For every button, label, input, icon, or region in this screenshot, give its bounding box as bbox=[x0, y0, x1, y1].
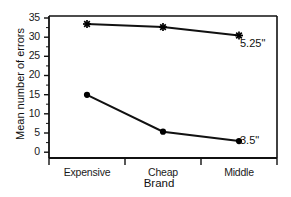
series-annotation-3-5: 3.5" bbox=[240, 134, 259, 146]
y-axis-title: Mean number of errors bbox=[14, 19, 26, 149]
series-line-3-5 bbox=[84, 92, 242, 144]
x-axis-ticks bbox=[49, 158, 277, 165]
chart-figure: 35 30 25 20 15 10 5 0 Expensive Cheap Mi… bbox=[0, 0, 291, 197]
x-axis-title: Brand bbox=[40, 177, 278, 189]
series-markers-5-25 bbox=[83, 20, 243, 40]
series-line-5-25 bbox=[83, 20, 243, 40]
series-annotation-5-25: 5.25" bbox=[240, 37, 265, 49]
series-markers-3-5 bbox=[84, 92, 242, 144]
